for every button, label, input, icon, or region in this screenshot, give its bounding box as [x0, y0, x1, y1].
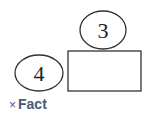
left-ellipse-label: 4	[34, 61, 45, 86]
top-ellipse-label: 3	[98, 18, 109, 43]
fact-tag-label: Fact	[18, 96, 47, 112]
fact-tag[interactable]: ×Fact	[9, 96, 47, 112]
close-icon[interactable]: ×	[9, 98, 16, 112]
empty-box	[68, 51, 141, 91]
